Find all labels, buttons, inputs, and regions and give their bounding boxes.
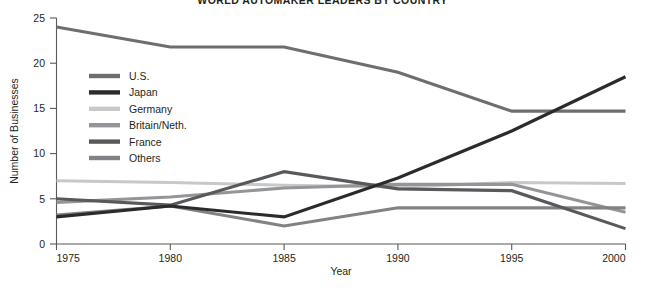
x-tick-label: 1990 [386, 252, 410, 264]
chart-plot: 0510152025 197519801985199019952000 Numb… [0, 0, 645, 290]
x-axis-ticks: 197519801985199019952000 [57, 244, 626, 264]
y-tick-label: 0 [39, 238, 45, 250]
legend-label: Others [129, 152, 161, 164]
legend-label: France [129, 136, 162, 148]
x-axis-title: Year [330, 265, 352, 277]
legend-label: Japan [129, 86, 158, 98]
y-tick-label: 20 [33, 57, 45, 69]
chart-container: WORLD AUTOMAKER LEADERS BY COUNTRY 05101… [0, 0, 645, 290]
y-tick-label: 15 [33, 102, 45, 114]
chart-legend: U.S.JapanGermanyBritain/Neth.FranceOther… [89, 70, 187, 164]
x-tick-label: 1975 [57, 252, 81, 264]
legend-label: Germany [129, 103, 173, 115]
x-tick-label: 1980 [159, 252, 183, 264]
x-tick-label: 2000 [602, 252, 626, 264]
series-line-france [57, 172, 626, 229]
legend-label: Britain/Neth. [129, 119, 187, 131]
x-tick-label: 1995 [500, 252, 524, 264]
y-axis-ticks: 0510152025 [33, 12, 56, 250]
legend-label: U.S. [129, 70, 149, 82]
y-tick-label: 5 [39, 193, 45, 205]
y-tick-label: 10 [33, 147, 45, 159]
x-tick-label: 1985 [272, 252, 296, 264]
y-axis-title: Number of Businesses [8, 78, 20, 184]
y-tick-label: 25 [33, 12, 45, 24]
